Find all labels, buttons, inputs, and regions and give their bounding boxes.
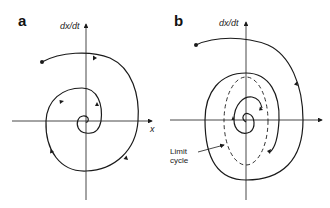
panel-a-axes bbox=[12, 24, 152, 200]
panel-b-outer-trajectory bbox=[196, 38, 303, 180]
panel-a-direction-arrows bbox=[50, 56, 128, 161]
panel-b-inner-trajectory bbox=[234, 97, 262, 133]
panel-a-spiral bbox=[42, 53, 138, 171]
panel-a-start-point bbox=[40, 60, 44, 64]
limit-cycle-pointer bbox=[198, 145, 224, 152]
panel-b-axes bbox=[170, 22, 322, 200]
phase-portrait-diagram bbox=[0, 0, 330, 208]
panel-b-start-point bbox=[194, 43, 198, 47]
